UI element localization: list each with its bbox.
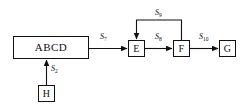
edge-label-s9-subscript: 9 xyxy=(159,12,162,18)
node-abcd[interactable]: ABCD xyxy=(13,36,89,59)
edge-label-s8-subscript: 8 xyxy=(159,36,162,42)
node-e[interactable]: E xyxy=(128,40,145,57)
edge-label-s8: S8 xyxy=(155,33,162,41)
node-h[interactable]: H xyxy=(38,85,55,102)
edge-label-s2-subscript: 2 xyxy=(55,68,58,74)
edge-label-s7-subscript: 7 xyxy=(104,36,107,42)
edge-label-s7: S7 xyxy=(100,33,107,41)
node-g[interactable]: G xyxy=(219,40,236,57)
edge-label-s2: S2 xyxy=(51,65,58,73)
node-f[interactable]: F xyxy=(173,40,190,57)
edge-label-s9: S9 xyxy=(155,9,162,17)
edge-label-s10: S10 xyxy=(199,33,209,41)
block-diagram: ABCD E F G H S7 S8 S9 S10 S2 xyxy=(0,0,249,111)
edge-label-s10-subscript: 10 xyxy=(203,36,209,42)
